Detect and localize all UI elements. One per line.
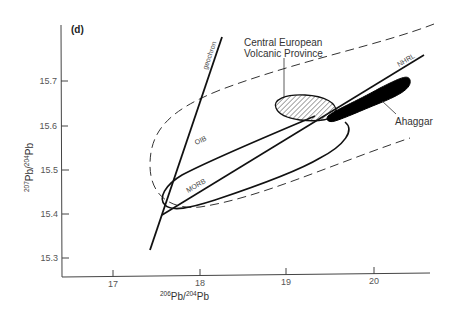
y-tick-label: 15.6 [39,121,57,131]
geochron-line [150,37,222,250]
y-tick-label: 15.4 [40,209,58,219]
y-axis-line [61,25,62,277]
y-tick-label: 15.5 [40,165,58,175]
isotope-chart: 15.7 15.6 15.5 15.4 15.3 17 18 19 20 206… [0,0,453,317]
x-tick-label: 19 [281,277,291,287]
ahaggar-leader-line [382,101,396,114]
y-axis-label: 207Pb/204Pb [23,143,35,192]
x-axis-label: 206Pb/204Pb [160,290,209,302]
x-tick-label: 17 [108,279,118,289]
x-tick-label: 18 [195,278,205,288]
x-tick-label: 20 [369,276,379,286]
ahaggar-label: Ahaggar [395,116,433,127]
y-tick-label: 15.7 [39,76,57,86]
axes: 15.7 15.6 15.5 15.4 15.3 17 18 19 20 206… [23,25,430,302]
y-tick-label: 15.3 [40,253,58,263]
panel-label: (d) [71,24,84,35]
oib-label: OIB [193,134,207,146]
cevp-label-line2: Volcanic Province [244,48,323,59]
morb-label: MORB [185,177,207,194]
ahaggar-field [327,77,410,121]
cevp-label-line1: Central European [244,37,322,48]
